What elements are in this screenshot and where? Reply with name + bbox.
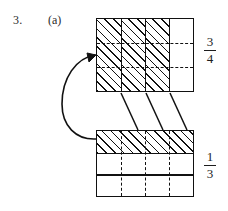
top-column-divider-1 [121,19,122,91]
top-model-column-dividers [97,19,193,91]
curved-arrow-path [62,55,96,139]
bottom-fraction-denominator: 3 [197,167,223,181]
top-fraction-model [96,18,194,92]
top-column-divider-3 [169,19,170,91]
connector-line-1 [121,93,138,130]
bottom-row-divider-1 [97,153,193,154]
curved-arrow-head [87,53,96,62]
worksheet-figure: 3. (a) [0,0,228,211]
bottom-row-divider-2 [97,174,193,175]
top-fraction-numerator: 3 [197,35,223,49]
bottom-fraction-numerator: 1 [197,150,223,164]
top-fraction-label: 3 4 [197,35,223,65]
bottom-fraction-label: 1 3 [197,150,223,180]
question-part-label: (a) [48,13,61,28]
top-column-divider-2 [145,19,146,91]
top-fraction-denominator: 4 [197,52,223,66]
bottom-model-row-dividers [97,131,193,196]
question-number: 3. [13,13,22,28]
connector-line-2 [146,93,163,130]
bottom-fraction-model [96,130,194,197]
connector-line-3 [170,93,187,130]
